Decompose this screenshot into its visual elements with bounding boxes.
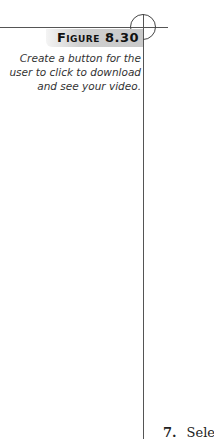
step-item: 7.Selec (163, 425, 214, 439)
step-number: 7. (163, 425, 177, 439)
step-text: Selec (187, 425, 214, 439)
figure-label-band: Figure 8.30 (46, 29, 143, 47)
figure-caption: Create a button for the user to click to… (1, 51, 141, 93)
figure-label: Figure 8.30 (57, 30, 139, 45)
vertical-margin-rule (143, 14, 144, 439)
